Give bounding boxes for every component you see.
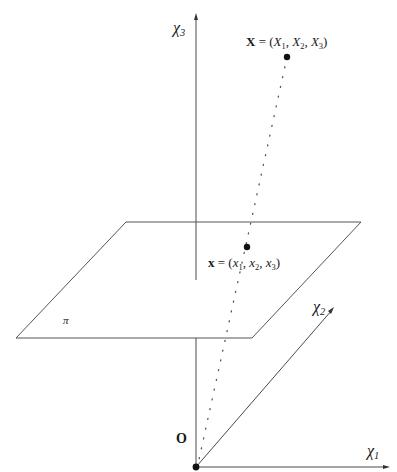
world-point-c3: X [311, 34, 319, 49]
world-point-c1: X [274, 34, 282, 49]
image-point-s2: 2 [255, 262, 259, 272]
world-point-dot [284, 54, 290, 60]
world-point-name: X [246, 34, 255, 49]
world-point-close: ) [323, 34, 327, 49]
image-point-label: x = (x1, x2, x3) [208, 256, 280, 271]
plane-label: π [63, 315, 69, 326]
x3-axis-label: χ3 [173, 20, 185, 39]
image-point-eq: = ( [215, 255, 233, 270]
world-point-c2: X [292, 34, 300, 49]
x3-symbol: χ [173, 19, 180, 36]
x1-arrow-icon [383, 465, 390, 469]
image-point-dot [244, 244, 250, 250]
x1-subscript: 1 [374, 450, 379, 461]
x2-axis-label: χ2 [313, 299, 325, 318]
x1-symbol: χ [367, 442, 374, 459]
x2-axis [196, 310, 332, 467]
world-point-eq: = ( [255, 34, 273, 49]
x3-arrow-icon [194, 13, 198, 20]
origin-label: O [176, 432, 187, 446]
world-point-s2: 2 [300, 41, 304, 51]
world-point-s1: 1 [282, 41, 286, 51]
x2-symbol: χ [313, 298, 320, 315]
projection-diagram [0, 0, 397, 472]
origin-dot [193, 464, 200, 471]
x3-subscript: 3 [180, 27, 185, 38]
x2-subscript: 2 [320, 306, 325, 317]
x1-axis-label: χ1 [367, 443, 379, 462]
image-point-s1: 1 [238, 262, 242, 272]
image-point-close: ) [276, 255, 280, 270]
world-point-label: X = (X1, X2, X3) [246, 35, 327, 50]
